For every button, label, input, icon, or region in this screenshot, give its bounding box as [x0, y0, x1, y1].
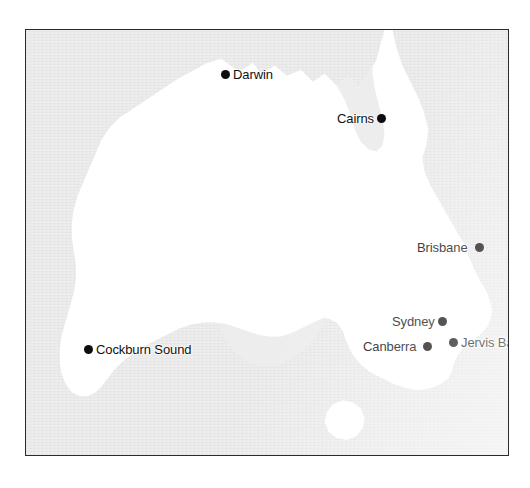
city-dot-icon	[449, 338, 458, 347]
city-label-canberra: Canberra	[363, 340, 416, 353]
city-label-cockburn-sound: Cockburn Sound	[96, 343, 191, 356]
city-dot-icon	[438, 317, 447, 326]
map-frame-border: Darwin Cairns Brisbane Sydney Canberra J…	[25, 29, 509, 456]
city-label-cairns: Cairns	[337, 112, 374, 125]
city-dot-icon	[84, 345, 93, 354]
map-figure: Darwin Cairns Brisbane Sydney Canberra J…	[0, 0, 530, 488]
city-label-brisbane: Brisbane	[417, 241, 468, 254]
city-dot-icon	[221, 70, 230, 79]
map-marker-darwin[interactable]: Darwin	[221, 68, 273, 81]
city-label-darwin: Darwin	[233, 68, 273, 81]
map-marker-sydney[interactable]: Sydney	[392, 315, 447, 328]
map-marker-cairns[interactable]: Cairns	[337, 112, 386, 125]
map-marker-brisbane[interactable]: Brisbane	[417, 241, 484, 254]
tasmania-path	[325, 400, 365, 440]
map-marker-jervis-bay[interactable]: Jervis Bay	[449, 336, 509, 349]
city-label-jervis-bay: Jervis Bay	[461, 336, 509, 349]
city-dot-icon	[423, 342, 432, 351]
city-dot-icon	[475, 243, 484, 252]
city-dot-icon	[377, 114, 386, 123]
map-marker-cockburn-sound[interactable]: Cockburn Sound	[84, 343, 191, 356]
map-marker-canberra[interactable]: Canberra	[363, 340, 432, 353]
city-label-sydney: Sydney	[392, 315, 435, 328]
